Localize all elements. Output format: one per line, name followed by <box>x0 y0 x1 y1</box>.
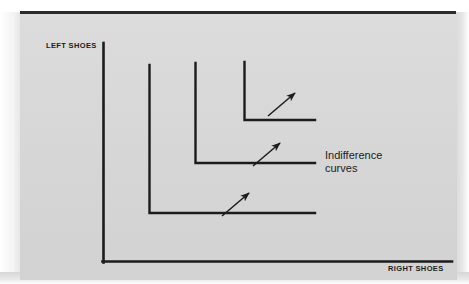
indifference-curve-3 <box>245 62 316 120</box>
axes <box>103 43 453 263</box>
annotation-line-1: Indifference <box>325 149 382 162</box>
indifference-curve-1 <box>150 65 316 213</box>
x-axis-label: RIGHT SHOES <box>388 264 444 273</box>
figure-panel: LEFT SHOES RIGHT SHOES Indifference curv… <box>0 0 469 284</box>
indifference-curves-annotation: Indifference curves <box>325 149 382 174</box>
indifference-curve-2 <box>196 63 316 163</box>
y-axis-label: LEFT SHOES <box>46 41 97 50</box>
annotation-line-2: curves <box>325 162 382 175</box>
increasing-utility-arrow-upper <box>268 93 295 116</box>
